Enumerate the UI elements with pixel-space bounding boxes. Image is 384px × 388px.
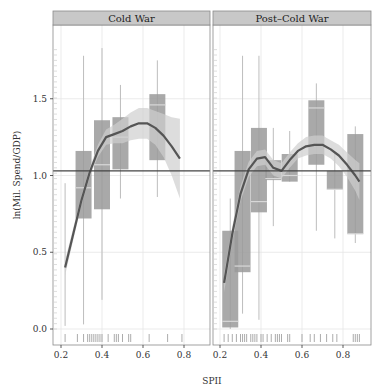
x-tick-label: 0.8 — [336, 350, 351, 360]
y-axis: 0.00.51.01.5 — [33, 94, 53, 334]
y-axis-title: ln(Mil. Spend/GDP) — [12, 131, 22, 220]
y-tick-label: 0.5 — [33, 247, 48, 257]
panel-cold-war: Cold War0.20.40.60.8 — [53, 11, 210, 360]
x-tick-label: 0.6 — [295, 350, 310, 360]
x-tick-label: 0.2 — [213, 350, 227, 360]
box — [327, 171, 343, 189]
strip-title: Post–Cold War — [255, 13, 328, 24]
y-tick-label: 1.5 — [33, 94, 48, 104]
panels-layer: Cold War0.20.40.60.8Post–Cold War0.20.40… — [53, 11, 371, 360]
x-tick-label: 0.4 — [95, 350, 110, 360]
box — [308, 100, 324, 164]
strip-title: Cold War — [108, 13, 155, 24]
x-axis-title: SPII — [202, 376, 222, 386]
x-tick-label: 0.6 — [136, 350, 151, 360]
panel-post-cold-war: Post–Cold War0.20.40.60.8 — [213, 11, 371, 360]
x-tick-label: 0.8 — [177, 350, 192, 360]
x-tick-label: 0.2 — [54, 350, 68, 360]
x-tick-label: 0.4 — [254, 350, 269, 360]
y-tick-label: 0.0 — [33, 324, 48, 334]
y-tick-label: 1.0 — [33, 171, 48, 181]
chart: Cold War0.20.40.60.8Post–Cold War0.20.40… — [0, 0, 384, 388]
box — [76, 151, 92, 219]
